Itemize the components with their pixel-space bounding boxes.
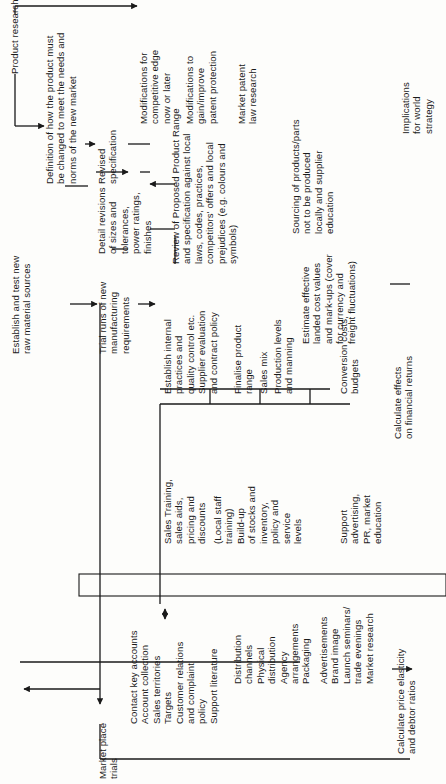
node-calc-price-elasticity: Calculate price elasticity and debtor ra… [395,648,418,754]
node-calc-financial-returns: Calculate effects on financial returns [392,356,415,439]
customer-list-promotion: Advertisements Brand image Launch semina… [318,607,375,684]
node-market-patent-research: Market patent law research [236,64,259,124]
node-finalise-range: Finalise product range [232,325,255,394]
node-local-staff-training: (Local staff training) [212,496,235,544]
node-detail-revisions: Detail revisions of sizes and tolerances… [96,187,153,254]
product-adaptation-flow-diagram: Product research Definition of how the p… [0,0,446,784]
node-build-up-stocks: Build-up of stocks and inventory, policy… [235,486,303,544]
node-trial-runs: Trial runs of new manufacturing requirem… [97,282,131,354]
node-implications-world-strategy: Implications for world strategy [400,82,434,134]
node-mods-competitive: Modifications for competitive edge now o… [138,50,172,124]
node-support-advertising: Support advertising, PR, market educatio… [338,494,384,544]
node-sales-training: Sales Training, sales aids, pricing and … [162,479,208,544]
node-sales-mix: Sales mix [258,352,269,394]
node-establish-raw-materials: Establish and test new raw material sour… [10,256,33,354]
node-market-place-trials: Market place trials [97,723,120,779]
node-production-levels: Production levels and manning [272,319,295,394]
node-sourcing: Sourcing of products/parts not to be pro… [290,119,336,234]
node-review-product-range: Review of Proposed Product Range and spe… [170,108,238,264]
node-definition: Definition of how the product must be ch… [44,33,78,185]
customer-list-distribution: Distribution channels Physical distribut… [232,624,312,684]
node-estimate-landed-cost: Estimate effective landed cost values an… [300,254,357,344]
customer-list-sales: Contact key accounts Account collection … [128,630,219,724]
node-establish-internal-practices: Establish internal practices and quality… [162,310,219,394]
node-product-research: Product research [9,0,20,74]
node-revised-specification: Revised specification [96,130,119,184]
